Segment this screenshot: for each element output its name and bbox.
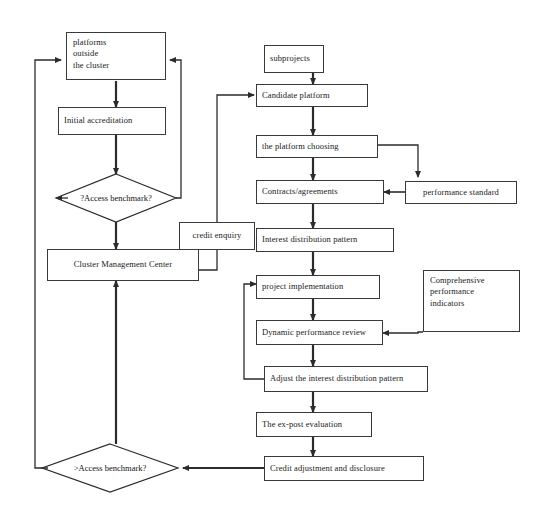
edge-choosing-to-standard	[378, 145, 418, 177]
node-credit-enquiry[interactable]: credit enquiry	[179, 222, 255, 250]
flowchart-canvas: platforms outside the cluster Initial ac…	[0, 0, 548, 516]
node-subprojects[interactable]: subprojects	[264, 45, 324, 73]
node-label: the platform choosing	[262, 141, 339, 152]
node-access-benchmark-2[interactable]: >Access benchmark?	[42, 444, 178, 492]
node-credit-adjustment-disclosure[interactable]: Credit adjustment and disclosure	[264, 456, 424, 481]
indicators-line-1: Comprehensive	[430, 275, 513, 286]
node-comprehensive-performance-indicators[interactable]: Comprehensive performance indicators	[423, 270, 520, 332]
node-performance-standard[interactable]: performance standard	[405, 181, 517, 204]
node-label: ?Access benchmark?	[56, 174, 176, 222]
indicators-line-3: indicators	[430, 298, 513, 309]
node-label: project implementation	[262, 281, 343, 292]
node-label: credit enquiry	[193, 230, 242, 241]
node-label: subprojects	[270, 53, 310, 64]
node-label: Dynamic performance review	[262, 327, 366, 338]
node-label: Candidate platform	[262, 90, 330, 101]
node-contracts-agreements[interactable]: Contracts/agreements	[256, 180, 384, 204]
node-dynamic-performance-review[interactable]: Dynamic performance review	[256, 320, 383, 345]
node-label: Credit adjustment and disclosure	[270, 463, 385, 474]
node-access-benchmark-1[interactable]: ?Access benchmark?	[56, 174, 176, 222]
node-interest-distribution-pattern[interactable]: Interest distribution pattern	[256, 228, 394, 252]
node-label: performance standard	[423, 187, 499, 198]
node-platform-choosing[interactable]: the platform choosing	[256, 135, 378, 158]
node-project-implementation[interactable]: project implementation	[256, 275, 380, 299]
the-cluster-word: the cluster	[73, 60, 159, 71]
node-candidate-platform[interactable]: Candidate platform	[256, 84, 368, 107]
node-adjust-interest-distribution[interactable]: Adjust the interest distribution pattern	[264, 366, 428, 392]
edge-indicators-to-review	[383, 332, 423, 333]
indicators-line-2: performance	[430, 286, 513, 297]
node-ex-post-evaluation[interactable]: The ex-post evaluation	[256, 412, 372, 437]
node-cluster-management-center[interactable]: Cluster Management Center	[47, 249, 199, 281]
edge-credit-enquiry-to-cmc	[199, 250, 217, 270]
node-label: >Access benchmark?	[42, 444, 178, 492]
node-label: Cluster Management Center	[74, 259, 172, 270]
node-label: Adjust the interest distribution pattern	[270, 373, 403, 384]
node-label: Contracts/agreements	[262, 186, 338, 197]
node-platforms-outside-cluster[interactable]: platforms outside the cluster	[66, 32, 166, 80]
outside-word: outside	[73, 48, 159, 59]
node-label: The ex-post evaluation	[262, 419, 342, 430]
node-label: Interest distribution pattern	[262, 234, 357, 245]
platforms-word: platforms	[73, 37, 159, 48]
node-initial-accreditation[interactable]: Initial accreditation	[58, 107, 166, 135]
node-label: Initial accreditation	[64, 115, 132, 126]
edge-credit-enquiry-to-candidate	[217, 95, 254, 222]
